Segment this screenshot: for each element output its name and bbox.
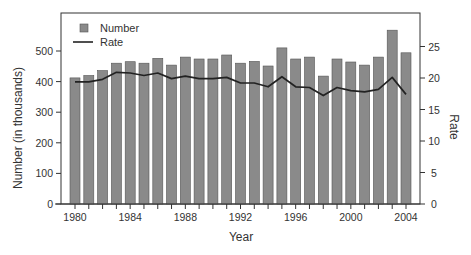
x-tick-label: 2004: [394, 211, 418, 223]
right-y-axis-title: Rate: [447, 114, 461, 140]
right-tick-label: 10: [428, 135, 440, 147]
left-tick-label: 400: [35, 76, 53, 88]
bar-1996: [291, 59, 301, 204]
right-tick-label: 5: [431, 167, 437, 179]
bar-1989: [194, 59, 204, 204]
bar-1990: [208, 59, 218, 204]
left-tick-label: 200: [35, 137, 53, 149]
legend: Number Rate: [73, 22, 139, 48]
left-tick-label: 0: [47, 198, 53, 210]
bar-1983: [111, 63, 121, 204]
left-tick-label: 100: [35, 167, 53, 179]
x-axis-title: Year: [229, 230, 253, 244]
x-tick-label: 2000: [339, 211, 363, 223]
right-tick-label: 20: [428, 72, 440, 84]
x-axis: 1980198419881992199620002004: [55, 204, 420, 223]
bar-1997: [305, 57, 315, 204]
x-tick-label: 1988: [174, 211, 198, 223]
bar-1995: [277, 48, 287, 204]
bar-1984: [125, 62, 135, 204]
right-tick-label: 15: [428, 104, 440, 116]
bar-2002: [373, 57, 383, 204]
bar-1982: [98, 71, 108, 204]
x-tick-label: 1984: [118, 211, 142, 223]
bar-1988: [180, 57, 190, 204]
bar-1987: [167, 65, 177, 204]
bar-1981: [84, 76, 94, 205]
bars-number-series: [70, 30, 411, 204]
bar-1999: [332, 59, 342, 204]
legend-swatch-number: [80, 24, 88, 32]
bar-2003: [387, 30, 397, 204]
left-y-axis: 0100200300400500: [35, 45, 61, 210]
bar-2001: [360, 65, 370, 204]
bar-2004: [401, 53, 411, 204]
x-tick-label: 1996: [284, 211, 308, 223]
right-tick-label: 25: [428, 41, 440, 53]
right-y-axis: 0510152025: [420, 41, 440, 211]
x-tick-label: 1992: [229, 211, 253, 223]
bar-1986: [153, 58, 163, 204]
bar-1992: [236, 63, 246, 204]
legend-label-number: Number: [100, 22, 139, 34]
bar-line-chart: 0100200300400500 0510152025 198019841988…: [0, 0, 471, 255]
bar-2000: [346, 62, 356, 204]
right-tick-label: 0: [431, 198, 437, 210]
left-tick-label: 300: [35, 106, 53, 118]
bar-1985: [139, 63, 149, 204]
left-tick-label: 500: [35, 45, 53, 57]
legend-label-rate: Rate: [100, 36, 123, 48]
x-tick-label: 1980: [63, 211, 87, 223]
bar-1980: [70, 78, 80, 204]
left-y-axis-title: Number (in thousands): [11, 67, 25, 189]
